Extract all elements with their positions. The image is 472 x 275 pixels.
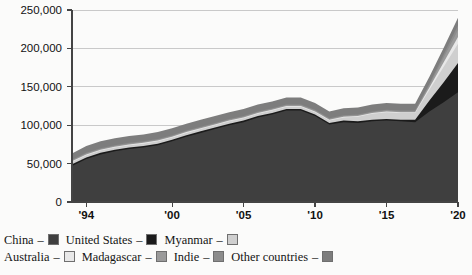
legend-item-china[interactable]: China– <box>4 232 59 248</box>
legend-swatch <box>156 251 167 262</box>
chart-legend: China–United States–Myanmar– Australia–M… <box>4 231 468 265</box>
x-axis-tick-label: '10 <box>307 209 323 221</box>
legend-dash: – <box>53 249 59 265</box>
plot-svg: 050,000100,000150,000200,000250,000'94'0… <box>0 0 472 232</box>
x-axis-tick-label: '94 <box>79 209 95 221</box>
x-axis-tick-label: '15 <box>379 209 395 221</box>
y-axis-tick-label: 150,000 <box>20 81 62 93</box>
legend-dash: – <box>203 249 209 265</box>
legend-label: China <box>4 232 34 248</box>
y-axis-tick-label: 50,000 <box>27 158 62 170</box>
legend-label: United States <box>66 232 132 248</box>
legend-swatch <box>146 234 157 245</box>
legend-dash: – <box>217 232 223 248</box>
legend-swatch <box>48 234 59 245</box>
legend-label: Myanmar <box>164 232 212 248</box>
legend-item-myanmar[interactable]: Myanmar– <box>164 232 237 248</box>
legend-label: Australia <box>4 249 49 265</box>
plot-area: 050,000100,000150,000200,000250,000'94'0… <box>0 0 472 232</box>
legend-swatch <box>227 234 238 245</box>
legend-row-2: Australia–Madagascar–Indie–Other countri… <box>4 248 468 265</box>
legend-item-australia[interactable]: Australia– <box>4 249 75 265</box>
y-axis-tick-label: 200,000 <box>20 42 62 54</box>
legend-item-united-states[interactable]: United States– <box>66 232 158 248</box>
legend-label: Madagascar <box>82 249 142 265</box>
legend-swatch <box>64 251 75 262</box>
y-axis-tick-label: 250,000 <box>20 4 62 16</box>
legend-dash: – <box>145 249 151 265</box>
legend-dash: – <box>38 232 44 248</box>
legend-row-1: China–United States–Myanmar– <box>4 231 468 248</box>
x-axis-tick-label: '05 <box>236 209 252 221</box>
x-axis-tick-label: '20 <box>450 209 466 221</box>
legend-item-madagascar[interactable]: Madagascar– <box>82 249 167 265</box>
legend-label: Other countries <box>231 249 308 265</box>
legend-dash: – <box>312 249 318 265</box>
y-axis-tick-label: 100,000 <box>20 119 62 131</box>
legend-item-indie[interactable]: Indie– <box>174 249 225 265</box>
legend-swatch <box>322 251 333 262</box>
y-axis-tick-label: 0 <box>56 196 62 208</box>
stacked-area-chart: 050,000100,000150,000200,000250,000'94'0… <box>0 0 472 275</box>
legend-item-other-countries[interactable]: Other countries– <box>231 249 333 265</box>
legend-label: Indie <box>174 249 199 265</box>
legend-dash: – <box>136 232 142 248</box>
x-axis-tick-label: '00 <box>164 209 180 221</box>
legend-swatch <box>213 251 224 262</box>
